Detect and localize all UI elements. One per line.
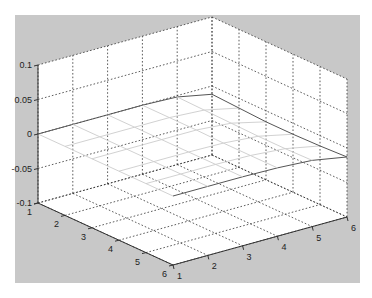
x-tick-label: 6 xyxy=(351,223,356,233)
y-tick-label: 5 xyxy=(135,257,140,267)
z-tick-label: -0.05 xyxy=(11,164,32,174)
y-tick-label: 3 xyxy=(81,232,86,242)
y-tick-label: 1 xyxy=(27,207,32,217)
y-tick-label: 6 xyxy=(162,269,167,279)
z-tick-label: 0.05 xyxy=(14,95,32,105)
y-tick-label: 4 xyxy=(108,244,113,254)
z-tick-label: 0.1 xyxy=(19,60,32,70)
x-tick-label: 2 xyxy=(212,261,217,271)
z-tick-label: 0 xyxy=(27,129,32,139)
x-tick-label: 1 xyxy=(177,271,182,281)
x-tick-label: 3 xyxy=(247,252,252,262)
y-tick-label: 2 xyxy=(54,219,59,229)
x-tick-label: 4 xyxy=(281,242,286,252)
x-tick-label: 5 xyxy=(316,233,321,243)
surface-plot-figure: -0.1-0.0500.050.1123456123456 xyxy=(0,0,372,298)
